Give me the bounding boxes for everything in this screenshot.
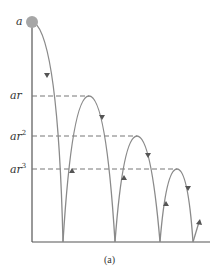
diagram-canvas: [0, 0, 220, 272]
arrow-down-icon: [185, 186, 191, 191]
label-ar3-exp: 3: [22, 162, 26, 170]
bounce-2: [115, 136, 160, 242]
drop-curve: [34, 22, 63, 242]
arrow-down-icon: [145, 153, 151, 158]
label-ar2-base: ar: [10, 130, 22, 143]
label-ar: ar: [10, 89, 22, 102]
ball: [26, 16, 38, 28]
label-ar2-exp: 2: [22, 129, 26, 137]
arrow-down-icon: [99, 115, 105, 120]
figure-caption: (a): [104, 254, 115, 265]
arrow-up-icon: [196, 219, 202, 225]
label-a: a: [16, 15, 23, 28]
label-ar3: ar3: [10, 162, 26, 176]
label-ar3-base: ar: [10, 163, 22, 176]
label-ar2: ar2: [10, 129, 26, 143]
bounce-4-start: [193, 222, 199, 242]
arrow-down-icon: [44, 73, 50, 78]
ball-path: [34, 22, 199, 242]
bouncing-ball-diagram: a ar ar2 ar3 (a): [0, 0, 220, 272]
axes: [32, 22, 210, 242]
